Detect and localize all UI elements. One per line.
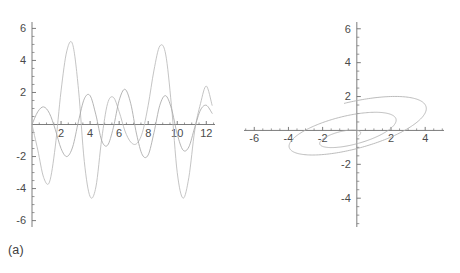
y-tick-label: -2 xyxy=(16,150,26,162)
y-tick-label: -4 xyxy=(341,192,351,204)
x-tick-label: 4 xyxy=(422,132,428,144)
series-line-0 xyxy=(32,42,212,199)
plot-b: -6-4-224-4-2246 xyxy=(230,0,460,240)
panel-a: 24681012-6-4-2246 (a) xyxy=(0,0,230,273)
x-tick-label: -6 xyxy=(249,132,259,144)
y-tick-label: 6 xyxy=(20,22,26,34)
plot-a: 24681012-6-4-2246 xyxy=(0,0,230,240)
x-tick-label: 12 xyxy=(200,127,212,139)
two-panel-figure: 24681012-6-4-2246 (a) -6-4-224-4-2246 (b… xyxy=(0,0,460,273)
panel-b: -6-4-224-4-2246 (b) xyxy=(230,0,460,273)
y-tick-label: 2 xyxy=(20,86,26,98)
x-tick-label: -4 xyxy=(284,132,294,144)
x-tick-label: 2 xyxy=(388,132,394,144)
y-tick-label: -2 xyxy=(341,158,351,170)
y-tick-label: 6 xyxy=(345,23,351,35)
y-tick-label: 4 xyxy=(20,54,26,66)
y-tick-label: -6 xyxy=(16,214,26,226)
y-tick-label: -4 xyxy=(16,182,26,194)
x-tick-label: 6 xyxy=(116,127,122,139)
x-tick-label: 8 xyxy=(145,127,151,139)
y-tick-label: 2 xyxy=(345,90,351,102)
panel-a-caption: (a) xyxy=(8,243,24,257)
x-tick-label: 4 xyxy=(87,127,93,139)
x-tick-label: -2 xyxy=(318,132,328,144)
x-tick-label: 2 xyxy=(58,127,64,139)
series-line-1 xyxy=(32,89,212,157)
y-tick-label: 4 xyxy=(345,56,351,68)
